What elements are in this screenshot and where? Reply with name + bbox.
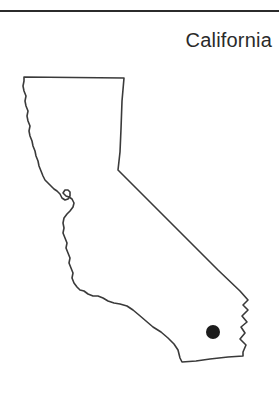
california-state-outline <box>23 77 248 362</box>
map-page: California <box>0 0 279 404</box>
location-dot-icon <box>206 325 220 339</box>
california-map-figure <box>0 0 279 404</box>
